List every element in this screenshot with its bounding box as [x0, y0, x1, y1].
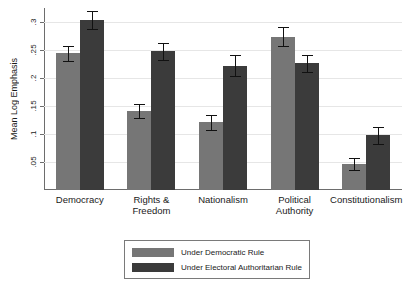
error-bar — [283, 27, 284, 46]
error-bar-cap — [373, 127, 384, 128]
bar — [56, 53, 80, 190]
legend-swatch-dark — [132, 263, 174, 272]
error-bar-cap — [373, 144, 384, 145]
y-axis-tick-label: .15 — [29, 100, 38, 112]
chart-legend: Under Democratic Rule Under Electoral Au… — [124, 240, 310, 279]
y-axis-title: Mean Log Emphasis — [8, 8, 20, 190]
y-axis-tick — [40, 106, 44, 107]
bar — [151, 51, 175, 190]
y-axis-title-text: Mean Log Emphasis — [9, 58, 19, 140]
y-axis-tick — [40, 78, 44, 79]
bar-chart-figure: Mean Log Emphasis .05.1.15.2.25.3 Democr… — [0, 0, 406, 284]
y-axis-tick-label: .2 — [29, 74, 38, 81]
error-bar-cap — [63, 46, 74, 47]
y-axis-tick-label: .05 — [29, 156, 38, 168]
y-axis-tick-label: .3 — [29, 18, 38, 25]
error-bar-cap — [349, 158, 360, 159]
bar — [223, 66, 247, 190]
error-bar-cap — [278, 46, 289, 47]
bar — [199, 122, 223, 190]
legend-label-electoral-authoritarian-rule: Under Electoral Authoritarian Rule — [181, 263, 302, 272]
y-axis-tick — [40, 50, 44, 51]
y-axis-tick-label: .1 — [29, 130, 38, 137]
x-axis-category-label: Political Authority — [276, 194, 314, 216]
bar — [127, 111, 151, 190]
error-bar-cap — [206, 115, 217, 116]
error-bar — [163, 43, 164, 60]
bar — [271, 37, 295, 190]
error-bar — [354, 158, 355, 170]
y-axis-tick — [40, 22, 44, 23]
bar — [295, 63, 319, 190]
legend-item-electoral-authoritarian-rule: Under Electoral Authoritarian Rule — [132, 261, 302, 273]
bar — [80, 20, 104, 190]
error-bar — [307, 55, 308, 72]
error-bar-cap — [63, 61, 74, 62]
error-bar — [211, 115, 212, 130]
error-bar-cap — [206, 130, 217, 131]
x-axis-category-label: Democracy — [56, 194, 104, 205]
x-axis-category-label: Nationalism — [198, 194, 248, 205]
x-axis-category-label: Rights & Freedom — [132, 194, 170, 216]
error-bar-cap — [230, 76, 241, 77]
legend-swatch-light — [132, 248, 174, 257]
x-axis-category-label: Constitutionalism — [330, 194, 402, 205]
error-bar-cap — [302, 55, 313, 56]
error-bar — [139, 104, 140, 119]
legend-item-democratic-rule: Under Democratic Rule — [132, 246, 302, 258]
error-bar-cap — [302, 72, 313, 73]
error-bar-cap — [158, 43, 169, 44]
error-bar — [68, 46, 69, 62]
y-axis-tick — [40, 162, 44, 163]
error-bar — [235, 55, 236, 76]
error-bar-cap — [278, 27, 289, 28]
error-bar — [378, 127, 379, 144]
legend-label-democratic-rule: Under Democratic Rule — [181, 248, 264, 257]
y-axis-tick — [40, 134, 44, 135]
error-bar-cap — [230, 55, 241, 56]
error-bar-cap — [87, 11, 98, 12]
error-bar-cap — [87, 29, 98, 30]
plot-area: .05.1.15.2.25.3 — [44, 8, 402, 190]
error-bar-cap — [349, 170, 360, 171]
error-bar-cap — [134, 104, 145, 105]
error-bar-cap — [134, 118, 145, 119]
y-axis-tick-label: .25 — [29, 44, 38, 56]
error-bar-cap — [158, 60, 169, 61]
error-bar — [92, 11, 93, 29]
